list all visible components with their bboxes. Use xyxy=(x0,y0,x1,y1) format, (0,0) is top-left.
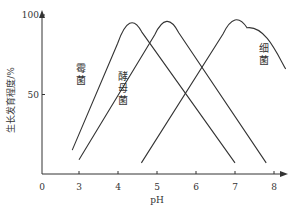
x-tick-label: 3 xyxy=(76,182,82,192)
series-label: 霉 xyxy=(76,63,86,74)
series-label: 母 xyxy=(118,83,128,94)
x-tick-label: 4 xyxy=(115,182,121,192)
x-axis-arrow-icon xyxy=(280,171,288,177)
x-tick-label: 5 xyxy=(154,182,160,192)
y-axis-arrow-icon xyxy=(39,10,45,18)
series-label: 菌 xyxy=(118,95,128,106)
x-tick-label: 8 xyxy=(271,182,277,192)
curve-2 xyxy=(141,20,285,163)
y-tick-label: 100 xyxy=(22,10,39,20)
x-tick-label: 7 xyxy=(232,182,238,192)
x-tick-label: 0 xyxy=(39,182,45,192)
series-label: 酵 xyxy=(118,71,128,82)
series-label: 细 xyxy=(259,42,269,54)
series-label: 菌 xyxy=(76,75,86,86)
series-label: 菌 xyxy=(259,55,269,66)
x-axis-title: pH xyxy=(150,195,164,205)
x-tick-label: 6 xyxy=(193,182,199,192)
y-tick-label: 50 xyxy=(28,90,40,100)
curve-1 xyxy=(79,21,266,162)
chart: 034567850100pH生长发育程度/% 霉菌酵母菌细菌 xyxy=(0,0,291,209)
curves xyxy=(72,20,285,163)
curve-0 xyxy=(72,23,235,163)
y-axis-title: 生长发育程度/% xyxy=(5,67,16,133)
